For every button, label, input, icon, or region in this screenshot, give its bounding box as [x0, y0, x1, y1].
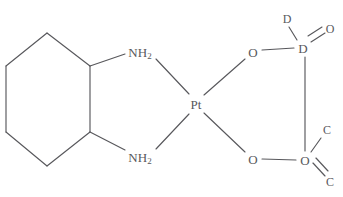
junction-label-bottom: O [300, 154, 309, 167]
ring-to-amine-bonds [90, 54, 125, 150]
amine-label-bottom: NH2 [128, 151, 151, 164]
junction-bottom-double-carbon-label: C [326, 176, 334, 188]
junction-label-top: D [298, 42, 307, 55]
junction-top-double-bond [308, 27, 325, 42]
oxygen-donor-label-bottom: O [248, 153, 257, 166]
junction-top-pendant-bond [289, 27, 297, 40]
metal-to-oxygen-bonds [204, 59, 245, 152]
junction-top-pendant-label: D [283, 13, 292, 25]
metal-center-label: Pt [191, 98, 202, 111]
junction-bottom-pendant-bond [311, 138, 321, 152]
junction-bottom-pendant-label: C [323, 124, 331, 136]
bond-skeleton [0, 0, 343, 197]
structure-diagram-canvas: NH2 NH2 Pt O O D D O O C C [0, 0, 343, 197]
oxygen-to-junction-bonds [262, 48, 296, 160]
junction-bottom-double-bond [313, 158, 328, 176]
junction-top-double-oxygen-label: O [326, 23, 335, 35]
amine-label-top: NH2 [128, 46, 151, 59]
oxygen-donor-label-top: O [248, 46, 257, 59]
amine-to-metal-bonds [156, 59, 189, 149]
cyclohexane-ring [6, 33, 90, 166]
